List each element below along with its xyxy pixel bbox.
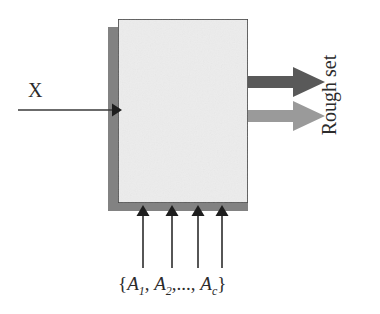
- attribute-arrow: [216, 205, 229, 268]
- output-arrow-secondary: [248, 101, 325, 131]
- attribute-arrow: [137, 205, 150, 268]
- attribute-arrow: [192, 205, 205, 268]
- output-label: Rough set: [319, 55, 339, 136]
- attributes-label: {A1, A2,..., Ac}: [118, 274, 226, 297]
- diagram-canvas: [0, 0, 380, 314]
- attribute-arrow: [166, 205, 179, 268]
- attributes-close-brace: }: [217, 273, 226, 294]
- attributes-ellipsis: ,...,: [172, 273, 201, 294]
- attributes-open-brace: {: [118, 273, 127, 294]
- attribute-arrows: [137, 205, 229, 268]
- processing-box: [118, 19, 248, 203]
- output-arrow-primary: [248, 67, 325, 97]
- attribute-ac: A: [200, 273, 212, 294]
- rough-set-diagram: X Rough set {A1, A2,..., Ac}: [0, 0, 380, 314]
- attributes-separator-1: ,: [145, 273, 155, 294]
- attribute-a2: A: [154, 273, 166, 294]
- input-arrow: [18, 104, 122, 117]
- input-label: X: [28, 80, 42, 100]
- attribute-a1: A: [127, 273, 139, 294]
